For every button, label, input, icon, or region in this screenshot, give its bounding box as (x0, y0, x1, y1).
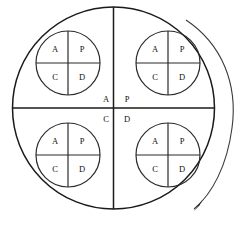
inner-circle-bottom-right-label-c: C (152, 164, 158, 174)
outer-label-c: C (103, 114, 109, 124)
inner-circle-bottom-right-label-p: P (180, 136, 185, 146)
inner-circle-bottom-right-label-d: D (179, 164, 185, 174)
rotation-arrow-head (194, 200, 203, 212)
inner-circle-top-right-label-p: P (180, 44, 185, 54)
outer-quadrant-labels: A P C D (103, 94, 130, 124)
fractal-quadrant-diagram: A P C D A P C D A P C D (0, 0, 251, 225)
rotation-arrow (186, 20, 233, 212)
inner-circle-top-right-label-c: C (152, 72, 158, 82)
inner-circle-bottom-left-label-p: P (80, 136, 85, 146)
inner-circle-top-left: A P C D (36, 31, 100, 95)
inner-circle-bottom-right: A P C D (136, 123, 200, 187)
diagram-root: A P C D A P C D A P C D (0, 0, 251, 225)
outer-label-p: P (125, 94, 130, 104)
inner-circle-bottom-right-label-a: A (152, 136, 159, 146)
inner-circle-top-right: A P C D (136, 31, 200, 95)
outer-label-d: D (124, 114, 130, 124)
inner-circle-top-right-label-d: D (179, 72, 185, 82)
inner-circle-bottom-left: A P C D (36, 123, 100, 187)
inner-circle-top-left-label-a: A (52, 44, 59, 54)
inner-circle-top-left-label-d: D (79, 72, 85, 82)
inner-circle-top-left-label-p: P (80, 44, 85, 54)
rotation-arrow-arc (186, 20, 233, 209)
inner-circle-bottom-left-label-a: A (52, 136, 59, 146)
inner-circle-bottom-left-label-c: C (52, 164, 58, 174)
outer-label-a: A (103, 94, 110, 104)
inner-circle-bottom-left-label-d: D (79, 164, 85, 174)
inner-circle-top-right-label-a: A (152, 44, 159, 54)
inner-circle-top-left-label-c: C (52, 72, 58, 82)
